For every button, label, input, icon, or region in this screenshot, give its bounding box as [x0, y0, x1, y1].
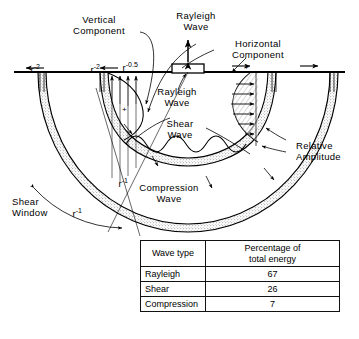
table-header-percentage-line1: Percentage of	[244, 243, 300, 253]
label-rayleigh-wave-source: RayleighWave	[144, 86, 210, 108]
table-header-percentage: Percentage of total energy	[206, 241, 340, 267]
label-rayleigh-wave-top: RayleighWave	[158, 10, 234, 32]
cell-percentage: 67	[206, 267, 340, 282]
wave-energy-table: Wave type Percentage of total energy Ray…	[140, 240, 340, 312]
label-vertical-component: VerticalComponent	[56, 14, 142, 36]
label-attenuation-rayleigh: r-0.5	[112, 50, 138, 84]
cell-percentage: 26	[206, 282, 340, 297]
svg-text:+: +	[244, 63, 249, 72]
table-row: Shear 26	[141, 282, 340, 297]
cell-wave-type: Shear	[141, 282, 206, 297]
label-attenuation-shear-body: r-1	[108, 166, 128, 200]
table-header-wave-type: Wave type	[141, 241, 206, 267]
cell-wave-type: Compression	[141, 297, 206, 312]
seismic-wave-propagation-figure: + +	[0, 0, 359, 339]
label-shear-wave: ShearWave	[152, 118, 208, 140]
horizontal-component-envelope: +	[231, 63, 258, 146]
table-header-row: Wave type Percentage of total energy	[141, 241, 340, 267]
label-horizontal-component: HorizontalComponent	[212, 38, 304, 60]
label-attenuation-window-arc: r-1	[62, 196, 82, 230]
label-compression-wave: CompressionWave	[118, 182, 220, 204]
table-row: Rayleigh 67	[141, 267, 340, 282]
label-attenuation-left-inner: r-2	[80, 52, 100, 86]
svg-text:+: +	[122, 105, 127, 114]
label-relative-amplitude: RelativeAmplitude	[296, 140, 358, 162]
table-row: Compression 7	[141, 297, 340, 312]
cell-percentage: 7	[206, 297, 340, 312]
table-body: Rayleigh 67 Shear 26 Compression 7	[141, 267, 340, 312]
footing-source	[172, 40, 204, 73]
cell-wave-type: Rayleigh	[141, 267, 206, 282]
table-header-percentage-line2: total energy	[249, 254, 296, 264]
label-attenuation-left-outer: r-2	[20, 52, 40, 86]
